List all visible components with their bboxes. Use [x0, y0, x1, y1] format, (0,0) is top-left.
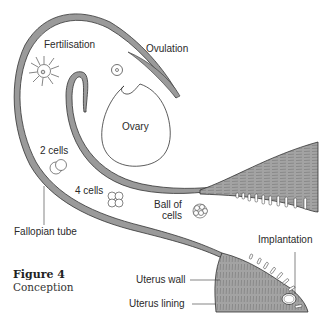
label-2-cells: 2 cells: [40, 146, 68, 156]
label-ovary: Ovary: [122, 122, 149, 132]
figure-caption: Conception: [13, 281, 74, 293]
label-ball-of-cells-2: cells: [162, 211, 182, 221]
label-fallopian-tube: Fallopian tube: [14, 227, 77, 237]
label-implantation: Implantation: [258, 235, 312, 245]
morula: [193, 204, 208, 218]
label-uterus-wall: Uterus wall: [136, 275, 185, 285]
label-ovulation: Ovulation: [146, 44, 188, 54]
implanted-embryo: [282, 294, 296, 305]
ovulated-egg: [112, 65, 123, 76]
fertilised-egg-with-sperm: [29, 56, 59, 86]
label-fertilisation: Fertilisation: [44, 40, 95, 50]
label-4-cells: 4 cells: [75, 186, 103, 196]
label-ball-of-cells-1: Ball of: [154, 200, 182, 210]
figure-number: Figure 4: [13, 268, 65, 281]
four-cell-embryo: [108, 192, 123, 207]
label-uterus-lining: Uterus lining: [129, 299, 185, 309]
two-cell-embryo: [50, 160, 67, 175]
uterus-upper-section: [200, 142, 318, 212]
